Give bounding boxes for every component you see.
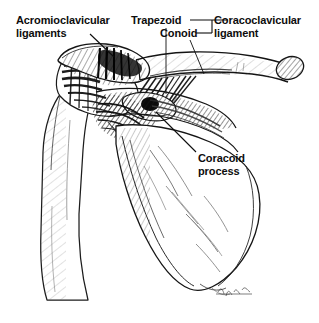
humerus-bone (40, 92, 94, 302)
label-coracoclavicular-line1: Coracoclavicular (214, 14, 301, 26)
shoulder-anatomy-illustration (0, 0, 319, 323)
artist-signature (216, 288, 252, 296)
label-coracoid-line1: Coracoid (198, 152, 245, 164)
label-trapezoid: Trapezoid (131, 14, 181, 27)
label-acromioclavicular-line2: ligaments (16, 27, 66, 39)
label-conoid: Conoid (160, 27, 197, 40)
anatomy-figure: Acromioclavicularligaments Trapezoid Con… (0, 0, 319, 323)
label-coracoclavicular-ligament: Coracoclavicularligament (214, 14, 301, 40)
label-coracoid-process: Coracoidprocess (198, 152, 245, 178)
label-acromioclavicular-line1: Acromioclavicular (16, 14, 110, 26)
scapula-body (116, 125, 260, 295)
label-coracoid-line2: process (198, 165, 240, 177)
label-acromioclavicular-ligaments: Acromioclavicularligaments (16, 14, 110, 40)
label-coracoclavicular-line2: ligament (214, 27, 258, 39)
